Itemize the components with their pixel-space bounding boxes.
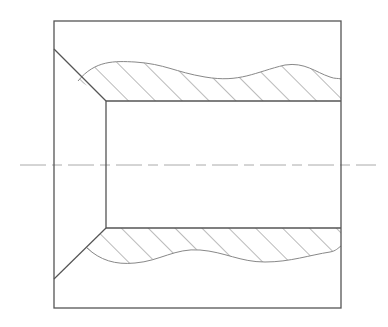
hatch-bottom: [54, 225, 344, 270]
section-drawing: [0, 0, 388, 327]
hatch-top: [54, 50, 344, 105]
